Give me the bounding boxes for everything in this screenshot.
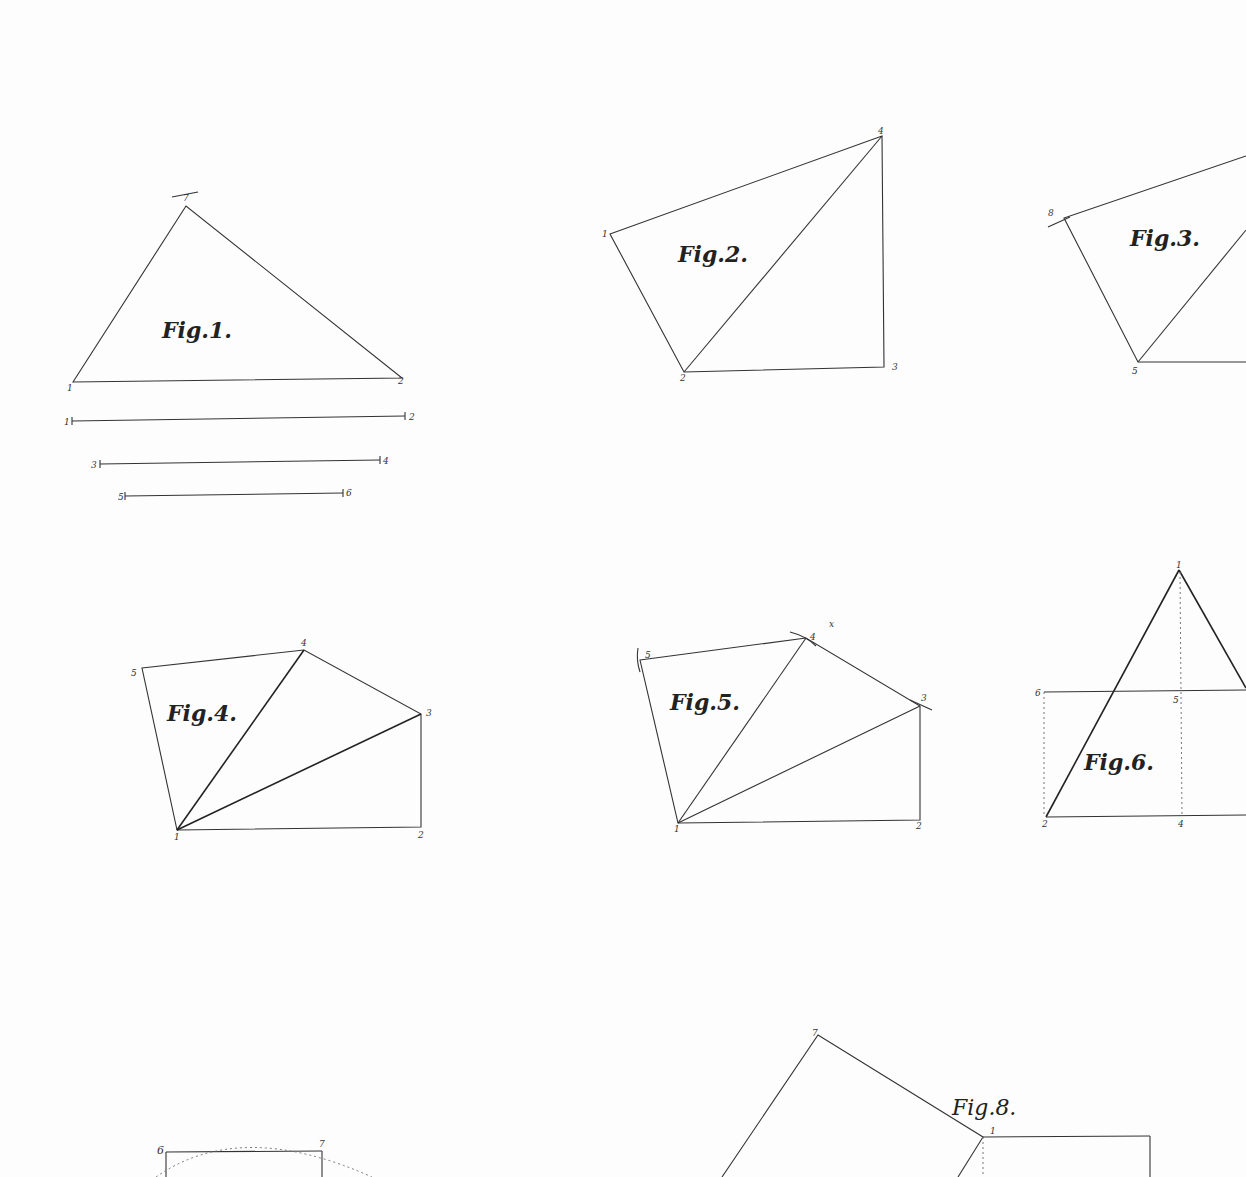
svg-text:1: 1: [174, 832, 180, 842]
plate-drawing: Fig.1. 7 1 2 1 2 3 4 5 6 Fig.2. 1 2 3 4 …: [0, 0, 1246, 1177]
figure-6: Fig.6. 1 6 5 2 4: [1035, 560, 1246, 829]
figure-4: Fig.4. 5 4 3 1 2: [131, 638, 432, 842]
svg-text:1: 1: [1176, 560, 1182, 570]
fig8-title: Fig.8.: [951, 1095, 1016, 1120]
geometry-plate: Fig.1. 7 1 2 1 2 3 4 5 6 Fig.2. 1 2 3 4 …: [0, 0, 1246, 1177]
svg-text:3: 3: [892, 362, 898, 372]
svg-text:5: 5: [1173, 695, 1179, 705]
figure-1: Fig.1. 7 1 2 1 2 3 4 5 6: [64, 192, 415, 502]
svg-text:2: 2: [417, 830, 424, 840]
svg-text:3: 3: [91, 460, 97, 470]
svg-text:5: 5: [131, 668, 137, 678]
svg-text:4: 4: [809, 632, 816, 642]
figure-2: Fig.2. 1 2 3 4: [602, 126, 898, 383]
svg-text:1: 1: [990, 1126, 996, 1136]
svg-text:4: 4: [300, 638, 307, 648]
svg-text:4: 4: [382, 456, 389, 466]
svg-text:6: 6: [346, 488, 352, 498]
svg-text:7: 7: [319, 1139, 325, 1149]
svg-text:6: 6: [1035, 688, 1041, 698]
svg-text:2: 2: [1041, 819, 1048, 829]
svg-text:2: 2: [679, 373, 686, 383]
svg-text:2: 2: [408, 412, 415, 422]
svg-text:1: 1: [67, 383, 73, 393]
fig2-title: Fig.2.: [677, 241, 748, 267]
svg-text:6: 6: [157, 1144, 164, 1157]
fig1-title: Fig.1.: [161, 317, 232, 343]
svg-text:7: 7: [812, 1028, 818, 1038]
svg-text:2: 2: [397, 376, 404, 386]
fig5-title: Fig.5.: [669, 689, 740, 715]
svg-text:8: 8: [1048, 208, 1054, 218]
svg-text:1: 1: [674, 824, 680, 834]
svg-text:3: 3: [426, 708, 432, 718]
svg-text:5: 5: [645, 650, 651, 660]
svg-text:5: 5: [1132, 366, 1138, 376]
svg-text:2: 2: [915, 821, 922, 831]
svg-text:1: 1: [64, 417, 70, 427]
figure-7: 6 7: [156, 1139, 372, 1177]
svg-text:4: 4: [877, 126, 884, 136]
figure-8: Fig.8. 7 1: [722, 1028, 1150, 1177]
figure-5: Fig.5. 5 4 3 1 2 x: [637, 619, 932, 834]
svg-text:4: 4: [1177, 819, 1184, 829]
fig4-title: Fig.4.: [166, 700, 237, 726]
fig3-title: Fig.3.: [1129, 225, 1200, 251]
svg-text:5: 5: [118, 492, 124, 502]
svg-text:7: 7: [183, 193, 189, 203]
fig6-title: Fig.6.: [1083, 749, 1154, 775]
figure-3: Fig.3. 8 5: [1048, 156, 1246, 376]
svg-text:3: 3: [921, 693, 927, 703]
svg-text:1: 1: [602, 229, 608, 239]
svg-text:x: x: [829, 619, 834, 629]
